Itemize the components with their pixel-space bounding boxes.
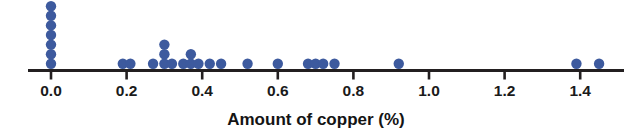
axis-group [28,71,624,80]
data-dot [159,39,169,49]
x-tick-label: 1.2 [494,82,516,99]
x-tick-label: 1.4 [569,82,591,99]
data-dot [46,39,56,49]
data-dot [125,59,135,69]
data-dot [394,59,404,69]
data-dot [273,59,283,69]
data-dot [571,59,581,69]
x-axis-tick-labels: 0.00.20.40.60.81.01.21.4 [40,82,591,99]
x-tick-label: 0.0 [40,82,62,99]
data-dots-group [46,1,605,69]
x-tick-label: 0.8 [343,82,365,99]
x-tick-label: 0.4 [191,82,213,99]
data-dot [186,49,196,59]
data-dot [46,11,56,21]
dot-plot-canvas: 0.00.20.40.60.81.01.21.4 Amount of coppe… [0,0,633,136]
x-tick-label: 0.6 [267,82,289,99]
data-dot [216,59,226,69]
data-dot [46,20,56,30]
x-tick-label: 1.0 [418,82,440,99]
x-tick-label: 0.2 [116,82,138,99]
data-dot [148,59,158,69]
data-dot [46,59,56,69]
data-dot [167,59,177,69]
data-dot [46,1,56,11]
data-dot [318,59,328,69]
data-dot [193,59,203,69]
data-dot [159,49,169,59]
data-dot [242,59,252,69]
dot-plot-figure: 0.00.20.40.60.81.01.21.4 Amount of coppe… [0,0,633,136]
data-dot [329,59,339,69]
data-dot [46,49,56,59]
x-axis-title: Amount of copper (%) [227,110,405,129]
data-dot [46,30,56,40]
data-dot [205,59,215,69]
data-dot [594,59,604,69]
